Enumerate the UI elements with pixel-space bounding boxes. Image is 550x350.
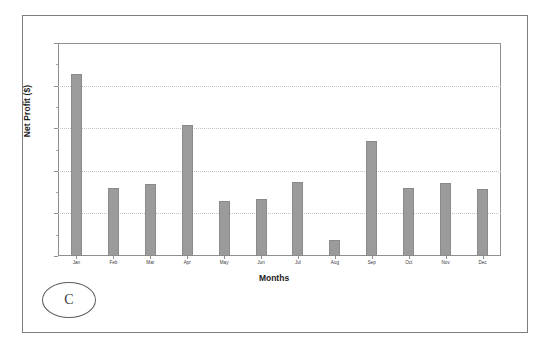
- x-tick-mark: [187, 256, 188, 259]
- bar: [108, 188, 119, 256]
- bar: [477, 189, 488, 256]
- gridline: [58, 171, 501, 172]
- x-tick-mark: [409, 256, 410, 259]
- x-tick-label: Mar: [146, 260, 154, 265]
- x-tick-label: Jun: [257, 260, 264, 265]
- bar: [182, 125, 193, 256]
- bar: [403, 188, 414, 256]
- x-tick-mark: [335, 256, 336, 259]
- x-tick-mark: [298, 256, 299, 259]
- x-tick-label: Feb: [109, 260, 117, 265]
- bar: [329, 240, 340, 256]
- bar: [145, 184, 156, 256]
- x-tick-mark: [261, 256, 262, 259]
- x-tick-mark: [76, 256, 77, 259]
- y-minor-tick-mark: [56, 192, 58, 193]
- bar: [219, 201, 230, 256]
- x-tick-label: May: [220, 260, 229, 265]
- x-tick-label: Oct: [405, 260, 412, 265]
- y-tick-mark: [54, 213, 58, 214]
- y-axis-title: Net Profit ($): [22, 61, 32, 161]
- x-tick-mark: [113, 256, 114, 259]
- x-tick-label: Dec: [478, 260, 486, 265]
- bar: [292, 182, 303, 256]
- x-tick-mark: [224, 256, 225, 259]
- y-tick-mark: [54, 256, 58, 257]
- y-minor-tick-mark: [56, 64, 58, 65]
- y-tick-mark: [54, 128, 58, 129]
- x-axis-title: Months: [44, 273, 504, 283]
- bar: [256, 199, 267, 256]
- x-tick-label: Jan: [73, 260, 80, 265]
- y-minor-tick-mark: [56, 107, 58, 108]
- y-tick-mark: [54, 171, 58, 172]
- x-tick-mark: [372, 256, 373, 259]
- x-tick-label: Jul: [295, 260, 301, 265]
- y-minor-tick-mark: [56, 235, 58, 236]
- x-tick-label: Sep: [368, 260, 376, 265]
- gridline: [58, 128, 501, 129]
- y-tick-mark: [54, 86, 58, 87]
- x-tick-label: Aug: [331, 260, 339, 265]
- y-minor-tick-mark: [56, 150, 58, 151]
- bar: [366, 141, 377, 256]
- gridline: [58, 213, 501, 214]
- bar: [440, 183, 451, 256]
- bar: [71, 74, 82, 256]
- x-tick-label: Apr: [184, 260, 191, 265]
- y-tick-mark: [54, 43, 58, 44]
- x-tick-mark: [446, 256, 447, 259]
- bar-chart-figure: Net Profit ($) 010002000300040005000 Jan…: [0, 0, 550, 350]
- x-tick-mark: [150, 256, 151, 259]
- panel-label-badge: C: [42, 282, 96, 318]
- gridline: [58, 86, 501, 87]
- x-tick-mark: [483, 256, 484, 259]
- x-tick-label: Nov: [442, 260, 450, 265]
- plot-area: [58, 43, 501, 256]
